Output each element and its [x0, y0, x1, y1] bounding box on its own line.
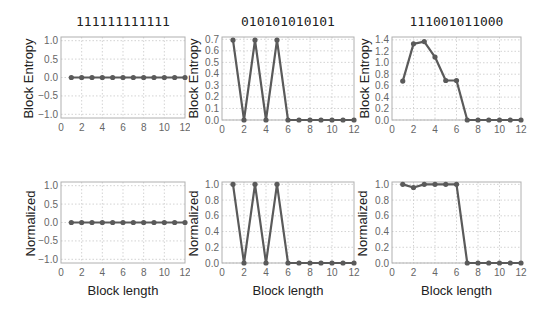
data-point: [151, 220, 156, 225]
y-tick-label: 0.0: [205, 115, 219, 126]
plot-4: 024681012−1.0−0.50.00.51.0: [30, 176, 190, 286]
x-tick-label: 8: [307, 124, 313, 135]
data-point: [465, 117, 470, 122]
data-point: [454, 182, 459, 187]
data-point: [79, 220, 84, 225]
data-point: [422, 39, 427, 44]
data-line: [403, 184, 521, 263]
x-tick-label: 4: [432, 267, 438, 278]
data-point: [252, 182, 257, 187]
data-point: [162, 220, 167, 225]
data-point: [518, 260, 523, 265]
data-point: [263, 260, 268, 265]
y-tick-label: 1.0: [44, 35, 58, 46]
data-point: [79, 75, 84, 80]
y-axis-label-2: Block Entropy: [186, 29, 201, 129]
data-point: [411, 185, 416, 190]
y-tick-label: 1.2: [375, 46, 389, 57]
y-tick-label: 0.4: [205, 226, 219, 237]
data-point: [454, 78, 459, 83]
data-point: [263, 117, 268, 122]
y-axis-label-5: Normalized: [186, 174, 201, 274]
x-tick-label: 4: [432, 124, 438, 135]
x-tick-label: 12: [515, 267, 527, 278]
data-point: [141, 220, 146, 225]
plot-6: 0246810120.00.20.40.60.81.0: [370, 176, 530, 286]
x-tick-label: 0: [389, 267, 395, 278]
x-tick-label: 4: [263, 124, 269, 135]
data-point: [151, 75, 156, 80]
x-tick-label: 10: [326, 124, 338, 135]
plot-title-2: 010101010101: [222, 14, 354, 29]
data-point: [69, 75, 74, 80]
data-point: [131, 220, 136, 225]
data-point: [100, 75, 105, 80]
y-tick-label: 0.6: [205, 210, 219, 221]
y-tick-label: 1.0: [375, 179, 389, 190]
x-tick-label: 6: [120, 122, 126, 133]
data-point: [285, 260, 290, 265]
data-point: [285, 117, 290, 122]
data-point: [230, 38, 235, 43]
x-axis-label-5: Block length: [222, 283, 354, 298]
data-point: [465, 260, 470, 265]
y-tick-label: 0.3: [205, 80, 219, 91]
x-tick-label: 2: [79, 267, 85, 278]
data-point: [411, 41, 416, 46]
data-point: [508, 260, 513, 265]
data-point: [162, 75, 167, 80]
plot-frame: [392, 182, 521, 263]
y-tick-label: 0.5: [205, 57, 219, 68]
data-point: [329, 260, 334, 265]
y-tick-label: 0.0: [205, 258, 219, 269]
x-tick-label: 6: [285, 124, 291, 135]
x-tick-label: 4: [100, 122, 106, 133]
y-tick-label: 0.0: [44, 72, 58, 83]
x-tick-label: 0: [58, 122, 64, 133]
data-point: [110, 75, 115, 80]
data-point: [100, 220, 105, 225]
data-point: [296, 260, 301, 265]
data-point: [497, 260, 502, 265]
x-tick-label: 0: [389, 124, 395, 135]
x-axis-label-4: Block length: [61, 283, 185, 298]
data-point: [486, 260, 491, 265]
plot-5: 0246810120.00.20.40.60.81.0: [200, 176, 360, 286]
data-point: [89, 220, 94, 225]
data-point: [443, 78, 448, 83]
y-tick-label: 0.4: [375, 92, 389, 103]
x-tick-label: 8: [475, 267, 481, 278]
x-tick-label: 10: [159, 267, 171, 278]
x-tick-label: 6: [454, 124, 460, 135]
y-tick-label: 0.1: [205, 103, 219, 114]
x-tick-label: 6: [285, 267, 291, 278]
y-tick-label: 1.0: [44, 180, 58, 191]
data-point: [318, 117, 323, 122]
y-tick-label: −1.0: [38, 254, 58, 265]
data-point: [475, 260, 480, 265]
y-tick-label: 1.4: [375, 34, 389, 45]
data-point: [497, 117, 502, 122]
data-point: [274, 38, 279, 43]
data-point: [443, 182, 448, 187]
data-point: [172, 75, 177, 80]
data-point: [307, 260, 312, 265]
y-tick-label: 0.2: [205, 91, 219, 102]
y-tick-label: 0.5: [44, 54, 58, 65]
x-tick-label: 2: [241, 124, 247, 135]
data-point: [340, 260, 345, 265]
data-point: [241, 117, 246, 122]
data-line: [233, 40, 354, 120]
data-point: [432, 182, 437, 187]
data-point: [172, 220, 177, 225]
x-tick-label: 2: [411, 124, 417, 135]
data-point: [69, 220, 74, 225]
data-point: [486, 117, 491, 122]
x-tick-label: 0: [58, 267, 64, 278]
x-tick-label: 8: [141, 122, 147, 133]
x-tick-label: 2: [241, 267, 247, 278]
x-tick-label: 12: [515, 124, 527, 135]
data-point: [296, 117, 301, 122]
data-point: [120, 75, 125, 80]
data-point: [400, 78, 405, 83]
